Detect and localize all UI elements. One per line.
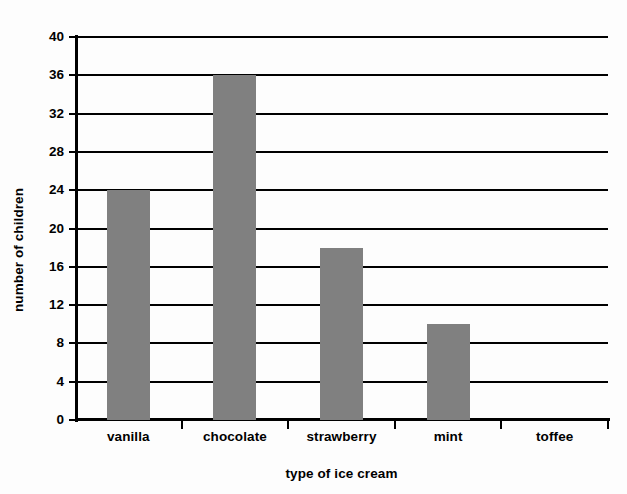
gridline	[75, 36, 608, 38]
y-tick-label: 36	[24, 68, 64, 82]
y-tick-label: 4	[24, 375, 64, 389]
x-tick-label: chocolate	[182, 429, 289, 444]
bar	[427, 324, 470, 420]
y-tick-label: 40	[24, 30, 64, 44]
x-axis-title: type of ice cream	[75, 466, 608, 481]
x-tick-label: mint	[395, 429, 502, 444]
y-tick-label: 24	[24, 183, 64, 197]
gridline	[75, 189, 608, 191]
x-tick-mark	[394, 418, 396, 429]
x-tick-label: toffee	[501, 429, 608, 444]
x-tick-label: strawberry	[288, 429, 395, 444]
bar	[213, 75, 256, 420]
bar	[107, 190, 150, 420]
x-tick-mark	[181, 418, 183, 429]
chart-title-clipped	[0, 0, 627, 10]
y-tick-label: 16	[24, 260, 64, 274]
gridline	[75, 113, 608, 115]
gridline	[75, 74, 608, 76]
x-tick-mark	[287, 418, 289, 429]
y-tick-label: 12	[24, 298, 64, 312]
gridline	[75, 151, 608, 153]
bar-chart-figure: number of children 0481216202428323640 v…	[0, 0, 627, 494]
x-tick-label: vanilla	[75, 429, 182, 444]
bar	[320, 248, 363, 420]
gridline	[75, 228, 608, 230]
y-tick-label: 32	[24, 107, 64, 121]
y-tick-label: 8	[24, 336, 64, 350]
x-tick-mark	[607, 418, 609, 429]
x-tick-mark	[500, 418, 502, 429]
y-tick-label: 20	[24, 222, 64, 236]
y-tick-label: 28	[24, 145, 64, 159]
plot-area	[75, 37, 608, 420]
y-tick-label: 0	[24, 413, 64, 427]
